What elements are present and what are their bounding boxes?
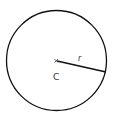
radius-line	[57, 61, 106, 72]
radius-label: r	[78, 54, 82, 63]
center-label: C	[53, 72, 59, 82]
circle-diagram: C r	[0, 0, 113, 120]
